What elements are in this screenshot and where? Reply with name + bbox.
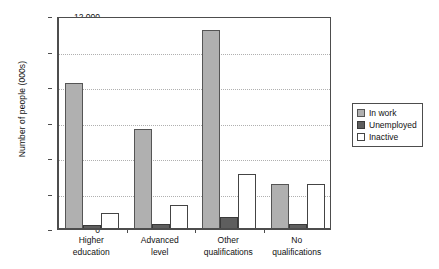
bar-inactive bbox=[101, 213, 119, 229]
bar-group bbox=[264, 18, 333, 229]
bar-group bbox=[127, 18, 196, 229]
y-axis-tick-mark bbox=[48, 124, 52, 125]
x-axis-label-line: No bbox=[257, 235, 338, 247]
y-axis-tick-mark bbox=[48, 17, 52, 18]
x-axis-line bbox=[58, 228, 330, 229]
bar-inactive bbox=[307, 184, 325, 229]
chart-legend: In work Unemployed Inactive bbox=[352, 103, 423, 147]
legend-swatch-unemployed bbox=[357, 121, 365, 129]
legend-label-inactive: Inactive bbox=[369, 132, 398, 142]
bar-group bbox=[195, 18, 264, 229]
x-axis-label: Noqualifications bbox=[257, 235, 338, 258]
bar-group bbox=[58, 18, 127, 229]
bar-in-work bbox=[134, 129, 152, 229]
bar-in-work bbox=[202, 30, 220, 229]
legend-swatch-inactive bbox=[357, 133, 365, 141]
bar-in-work bbox=[271, 184, 289, 229]
legend-item-inactive[interactable]: Inactive bbox=[357, 131, 417, 143]
legend-label-unemployed: Unemployed bbox=[369, 120, 417, 130]
legend-item-unemployed[interactable]: Unemployed bbox=[357, 119, 417, 131]
y-axis-title: Number of people (000s) bbox=[17, 29, 27, 189]
y-axis-tick-mark bbox=[48, 195, 52, 196]
bar-inactive bbox=[238, 174, 256, 229]
x-axis-tick-mark bbox=[195, 229, 196, 233]
plot-area bbox=[57, 17, 331, 230]
bar-inactive bbox=[170, 205, 188, 229]
legend-item-in-work[interactable]: In work bbox=[357, 107, 417, 119]
x-axis-label-line: qualifications bbox=[257, 247, 338, 259]
y-axis-tick-mark bbox=[48, 53, 52, 54]
y-axis-line bbox=[58, 18, 59, 229]
y-axis-tick-mark bbox=[48, 88, 52, 89]
legend-label-in-work: In work bbox=[369, 108, 396, 118]
x-axis-tick-mark bbox=[264, 229, 265, 233]
bar-in-work bbox=[65, 83, 83, 229]
y-axis-tick-mark bbox=[48, 159, 52, 160]
y-axis-tick-mark bbox=[48, 230, 52, 231]
x-axis-tick-mark bbox=[127, 229, 128, 233]
legend-swatch-in-work bbox=[357, 109, 365, 117]
chart-figure: Number of people (000s) 02 0004 0006 000… bbox=[0, 0, 439, 269]
